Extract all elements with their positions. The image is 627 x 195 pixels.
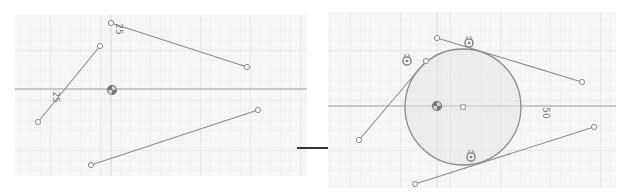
origin-icon — [433, 102, 442, 111]
endpoint-handle[interactable] — [412, 181, 417, 186]
endpoint-handle[interactable] — [97, 43, 102, 48]
endpoint-handle[interactable] — [108, 20, 113, 25]
dimension-label[interactable]: 25 — [114, 23, 124, 34]
endpoint-handle[interactable] — [255, 107, 260, 112]
dimension-label[interactable]: 50 — [541, 107, 551, 119]
endpoint-handle[interactable] — [434, 35, 439, 40]
diagram-canvas: 2525 50 — [0, 0, 627, 195]
dimension-label[interactable]: 25 — [51, 91, 61, 102]
before-panel: 2525 — [15, 15, 307, 176]
after-panel: 50 — [328, 12, 616, 188]
origin-icon — [108, 86, 117, 95]
endpoint-handle[interactable] — [35, 119, 40, 124]
endpoint-handle[interactable] — [88, 162, 93, 167]
endpoint-handle[interactable] — [579, 79, 584, 84]
endpoint-handle[interactable] — [591, 124, 596, 129]
endpoint-handle[interactable] — [423, 58, 428, 63]
endpoint-handle[interactable] — [356, 137, 361, 142]
endpoint-handle[interactable] — [244, 64, 249, 69]
circle-center-point[interactable] — [461, 105, 465, 109]
